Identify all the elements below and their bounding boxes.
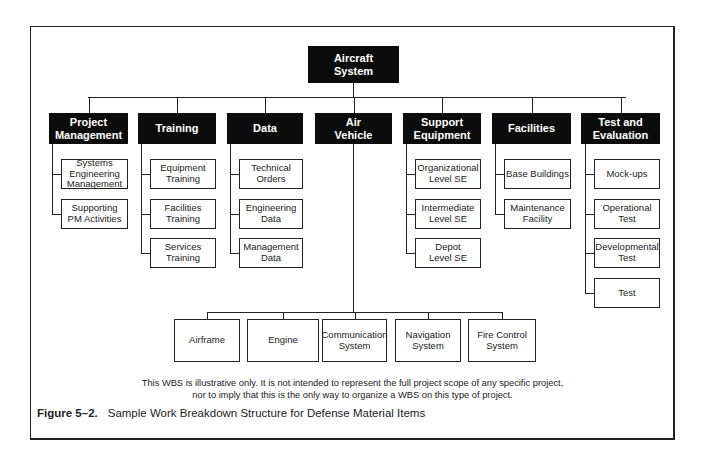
- leaf-air-vehicle-3: NavigationSystem: [395, 319, 461, 362]
- node-test-evaluation: Test andEvaluation: [581, 113, 660, 144]
- spine-facilities: [495, 144, 496, 214]
- drop-data: [265, 97, 266, 113]
- leaf-air-vehicle-1: Engine: [247, 319, 319, 362]
- leaf-pm-0: SystemsEngineeringManagement: [61, 159, 128, 189]
- spine-pm: [52, 144, 53, 214]
- branch-pm-1: [52, 214, 61, 215]
- branch-data-0: [230, 174, 239, 175]
- drop-support-equipment: [442, 97, 443, 113]
- leaf-air-vehicle-4: Fire ControlSystem: [468, 319, 536, 362]
- node-label: TechnicalOrders: [251, 163, 291, 185]
- node-aircraft-system: AircraftSystem: [308, 46, 399, 83]
- node-label: Test: [618, 288, 635, 299]
- node-label: NavigationSystem: [406, 330, 451, 352]
- branch-test-evaluation-2: [585, 253, 594, 254]
- drop-air-vehicle-2: [355, 312, 356, 319]
- node-label: Training: [156, 122, 199, 135]
- node-facilities: Facilities: [492, 113, 571, 144]
- figure-title: Sample Work Breakdown Structure for Defe…: [108, 407, 425, 419]
- node-air-vehicle: AirVehicle: [315, 113, 392, 144]
- node-label: Test andEvaluation: [593, 116, 649, 141]
- leaf-air-vehicle-0: Airframe: [174, 319, 240, 362]
- node-training: Training: [138, 113, 216, 144]
- node-label: AircraftSystem: [334, 52, 373, 77]
- leaf-data-2: ManagementData: [239, 238, 303, 268]
- leaf-test-evaluation-0: Mock-ups: [594, 159, 660, 189]
- leaf-facilities-1: MaintenanceFacility: [504, 199, 571, 229]
- figure-caption: Figure 5–2.Sample Work Breakdown Structu…: [37, 407, 425, 419]
- figure-number: Figure 5–2.: [37, 407, 98, 419]
- node-label: AirVehicle: [335, 116, 373, 141]
- node-label: OrganizationalLevel SE: [417, 163, 478, 185]
- node-label: ServicesTraining: [165, 242, 201, 264]
- branch-support-equipment-1: [406, 214, 415, 215]
- branch-test-evaluation-0: [585, 174, 594, 175]
- node-label: Facilities: [508, 122, 555, 135]
- level1-bus: [88, 97, 626, 98]
- node-pm: ProjectManagement: [49, 113, 128, 144]
- leaf-training-0: EquipmentTraining: [150, 159, 216, 189]
- node-label: Data: [253, 122, 277, 135]
- node-label: SupportingPM Activities: [68, 203, 122, 225]
- node-label: Fire ControlSystem: [477, 330, 527, 352]
- node-label: DevelopmentalTest: [595, 242, 658, 264]
- node-support-equipment: SupportEquipment: [403, 113, 481, 144]
- drop-test-evaluation: [621, 97, 622, 113]
- node-label: EngineeringData: [246, 203, 297, 225]
- node-label: CommunicationSystem: [322, 330, 388, 352]
- drop-air-vehicle: [354, 97, 355, 113]
- node-label: DepotLevel SE: [429, 242, 467, 264]
- branch-facilities-1: [495, 214, 504, 215]
- node-label: ProjectManagement: [55, 116, 122, 141]
- spine-data: [230, 144, 231, 253]
- drop-air-vehicle-1: [283, 312, 284, 319]
- branch-support-equipment-2: [406, 253, 415, 254]
- spine-support-equipment: [406, 144, 407, 253]
- drop-air-vehicle-4: [502, 312, 503, 319]
- branch-facilities-0: [495, 174, 504, 175]
- node-label: Airframe: [189, 335, 225, 346]
- leaf-facilities-0: Base Buildings: [504, 159, 571, 189]
- root-trunk: [353, 83, 354, 97]
- node-label: ManagementData: [243, 242, 298, 264]
- leaf-support-equipment-0: OrganizationalLevel SE: [415, 159, 481, 189]
- node-label: OperationalTest: [602, 203, 651, 225]
- node-label: Engine: [268, 335, 298, 346]
- leaf-pm-1: SupportingPM Activities: [61, 199, 128, 229]
- drop-training: [177, 97, 178, 113]
- drop-pm: [89, 97, 90, 113]
- branch-training-1: [141, 214, 150, 215]
- node-label: EquipmentTraining: [160, 163, 205, 185]
- leaf-data-1: EngineeringData: [239, 199, 303, 229]
- leaf-data-0: TechnicalOrders: [239, 159, 303, 189]
- node-label: MaintenanceFacility: [510, 203, 564, 225]
- branch-data-2: [230, 253, 239, 254]
- leaf-training-2: ServicesTraining: [150, 238, 216, 268]
- air-vehicle-trunk: [353, 144, 354, 312]
- node-label: Mock-ups: [606, 169, 647, 180]
- branch-training-0: [141, 174, 150, 175]
- node-label: SystemsEngineeringManagement: [67, 158, 122, 191]
- leaf-test-evaluation-1: OperationalTest: [594, 199, 660, 229]
- branch-pm-0: [52, 174, 61, 175]
- leaf-air-vehicle-2: CommunicationSystem: [322, 319, 387, 362]
- node-label: FacilitiesTraining: [165, 203, 202, 225]
- node-label: IntermediateLevel SE: [422, 203, 475, 225]
- leaf-training-1: FacilitiesTraining: [150, 199, 216, 229]
- drop-air-vehicle-0: [207, 312, 208, 319]
- node-label: SupportEquipment: [414, 116, 471, 141]
- branch-training-2: [141, 253, 150, 254]
- leaf-support-equipment-2: DepotLevel SE: [415, 238, 481, 268]
- branch-test-evaluation-1: [585, 214, 594, 215]
- drop-air-vehicle-3: [428, 312, 429, 319]
- leaf-support-equipment-1: IntermediateLevel SE: [415, 199, 481, 229]
- branch-test-evaluation-3: [585, 293, 594, 294]
- branch-support-equipment-0: [406, 174, 415, 175]
- leaf-test-evaluation-3: Test: [594, 278, 660, 308]
- branch-data-1: [230, 214, 239, 215]
- spine-test-evaluation: [585, 144, 586, 293]
- node-label: Base Buildings: [506, 169, 569, 180]
- node-data: Data: [227, 113, 303, 144]
- disclaimer-line-2: nor to imply that this is the only way t…: [0, 390, 705, 402]
- disclaimer-line-1: This WBS is illustrative only. It is not…: [0, 378, 705, 390]
